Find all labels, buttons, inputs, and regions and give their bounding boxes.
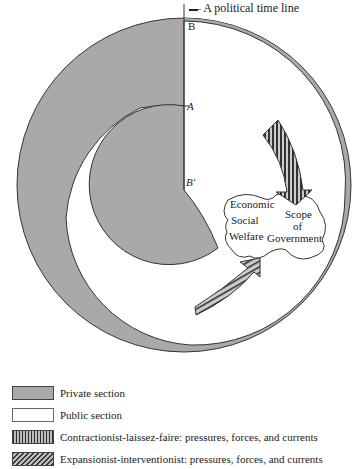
diagonal-stripes-swatch-icon bbox=[12, 452, 54, 466]
cloud-text-social: Social bbox=[231, 214, 259, 226]
point-b-prime-label: B′ bbox=[186, 176, 195, 188]
cloud-text-scope: Scope bbox=[285, 208, 312, 220]
legend-label: Public section bbox=[60, 409, 122, 421]
cloud-text-economic: Economic bbox=[230, 198, 275, 210]
legend-label: Expansionist-interventionist: pressures,… bbox=[60, 453, 323, 465]
legend-item-public: Public section bbox=[12, 404, 358, 426]
vertical-stripes-swatch-icon bbox=[12, 430, 54, 444]
private-swatch-icon bbox=[12, 386, 54, 400]
legend: Private section Public section Contracti… bbox=[12, 382, 358, 469]
timeline-label: — A political time line bbox=[185, 2, 299, 14]
legend-label: Private section bbox=[60, 387, 125, 399]
legend-item-private: Private section bbox=[12, 382, 358, 404]
cloud-text-welfare: Welfare bbox=[229, 230, 264, 242]
legend-item-contractionist: Contractionist-laissez-faire: pressures,… bbox=[12, 426, 358, 448]
point-b-label: B bbox=[188, 20, 195, 32]
public-swatch-icon bbox=[12, 408, 54, 422]
legend-item-expansionist: Expansionist-interventionist: pressures,… bbox=[12, 448, 358, 469]
cloud-text-of: of bbox=[293, 220, 302, 232]
legend-label: Contractionist-laissez-faire: pressures,… bbox=[60, 431, 318, 443]
political-scope-diagram: — A political time line B A B′ Economic … bbox=[0, 0, 358, 380]
diagram-svg bbox=[0, 0, 358, 380]
point-a-label: A bbox=[187, 100, 194, 112]
cloud-text-government: Government bbox=[267, 232, 322, 244]
timeline-label-text: — A political time line bbox=[189, 1, 299, 15]
